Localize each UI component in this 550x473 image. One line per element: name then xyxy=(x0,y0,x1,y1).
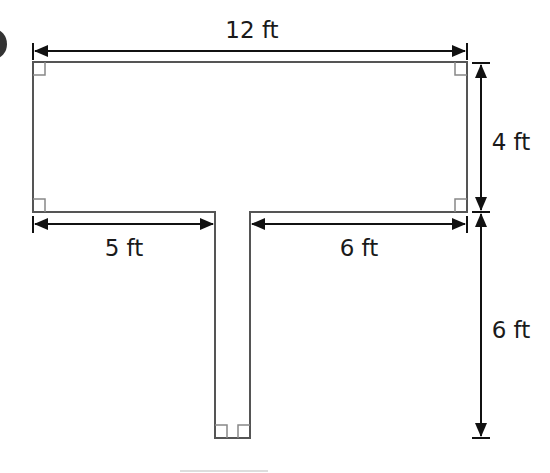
diagram-canvas: 12 ft 4 ft 6 ft 5 ft 6 ft xyxy=(0,0,550,473)
dimension-right-upper xyxy=(472,63,490,212)
label-bottom-right: 6 ft xyxy=(340,235,379,261)
dimension-top-width xyxy=(33,43,467,60)
shape-outline xyxy=(33,62,467,438)
right-angle-top-right xyxy=(455,62,467,75)
right-angle-bottom-right xyxy=(455,199,467,212)
t-shape-figure xyxy=(0,0,550,473)
dimension-right-lower xyxy=(472,214,490,438)
right-angle-stem-left xyxy=(215,425,227,438)
right-angle-bottom-left xyxy=(33,199,45,212)
problem-number-bubble xyxy=(0,29,7,59)
label-top-width: 12 ft xyxy=(225,17,278,43)
label-bottom-left: 5 ft xyxy=(105,235,144,261)
label-right-upper: 4 ft xyxy=(492,129,531,155)
right-angle-stem-right xyxy=(238,425,250,438)
label-right-lower: 6 ft xyxy=(492,317,531,343)
right-angle-top-left xyxy=(33,62,45,75)
dimension-bottom-right xyxy=(252,216,467,233)
dimension-bottom-left xyxy=(33,216,213,233)
